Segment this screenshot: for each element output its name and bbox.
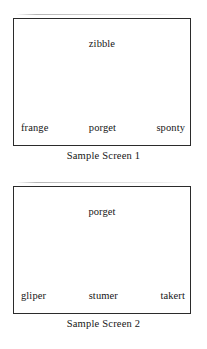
screen-2-option-left[interactable]: gliper bbox=[21, 290, 46, 301]
screen-box-2: porget gliper stumer takert bbox=[13, 186, 191, 314]
screen-1-option-right[interactable]: sponty bbox=[156, 122, 185, 133]
figure-caption-1: Sample Screen 1 bbox=[0, 150, 207, 161]
screen-2-title-label[interactable]: porget bbox=[88, 206, 115, 217]
screen-1-option-left[interactable]: frange bbox=[21, 122, 48, 133]
figure-caption-2: Sample Screen 2 bbox=[0, 318, 207, 329]
screen-2-option-row: gliper stumer takert bbox=[21, 290, 185, 301]
screen-1-title-row: zibble bbox=[14, 33, 190, 51]
figure-root: zibble frange porget sponty Sample Scree… bbox=[0, 0, 207, 349]
screen-1-option-center[interactable]: porget bbox=[89, 122, 116, 133]
scan-artifact-line-2 bbox=[16, 182, 186, 183]
screen-2-option-right[interactable]: takert bbox=[160, 290, 185, 301]
screen-2-option-center[interactable]: stumer bbox=[89, 290, 118, 301]
screen-box-1: zibble frange porget sponty bbox=[13, 18, 191, 146]
screen-1-option-row: frange porget sponty bbox=[21, 122, 185, 133]
screen-2-title-row: porget bbox=[14, 201, 190, 219]
screen-1-title-label[interactable]: zibble bbox=[89, 38, 115, 49]
scan-artifact-line-1 bbox=[16, 14, 186, 15]
